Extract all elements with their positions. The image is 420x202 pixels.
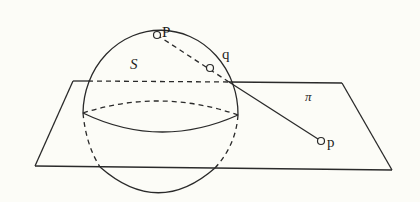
point-P-marker [154, 32, 161, 39]
equator-front [83, 113, 238, 132]
stereographic-projection-diagram: P S q π p [0, 0, 420, 202]
plane-pi [35, 81, 392, 170]
sphere-upper-outline [83, 30, 238, 115]
sphere-lower-outline-hidden-left [83, 113, 100, 167]
label-S: S [130, 56, 138, 72]
point-p-marker [318, 138, 325, 145]
point-q-marker [207, 65, 214, 72]
plane-top-edge-hidden [88, 81, 229, 82]
label-q: q [222, 46, 230, 62]
label-pi: π [305, 89, 312, 104]
sphere-bottom-cap [100, 167, 215, 193]
plane-left-edge [35, 81, 73, 166]
label-P: P [162, 24, 170, 40]
projection-ray [157, 35, 318, 139]
equator-back-hidden [83, 101, 238, 115]
label-p: p [327, 134, 335, 150]
plane-top-edge-right [229, 82, 342, 83]
plane-right-edge [342, 83, 392, 170]
sphere-s [83, 30, 238, 193]
